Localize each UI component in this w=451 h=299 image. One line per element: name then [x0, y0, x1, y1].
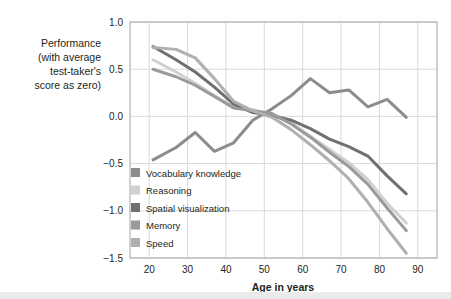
x-tick-label: 90: [412, 264, 424, 275]
x-tick-label: 40: [220, 264, 232, 275]
y-tick-label: 0.0: [109, 111, 123, 122]
legend-swatch: [131, 221, 140, 230]
legend-swatch: [131, 186, 140, 195]
bottom-divider-strip: [0, 292, 451, 299]
legend-label: Memory: [146, 220, 181, 231]
legend-swatch: [131, 203, 140, 212]
y-tick-label: −1.5: [103, 253, 123, 264]
y-axis-title-line: (with average: [38, 51, 101, 63]
y-tick-label: 0.5: [109, 64, 123, 75]
x-tick-label: 80: [374, 264, 386, 275]
x-tick-label: 60: [297, 264, 309, 275]
y-axis-title-line: test-taker's: [50, 65, 101, 77]
y-tick-label: 1.0: [109, 17, 123, 28]
x-tick-label: 20: [144, 264, 156, 275]
legend-label: Vocabulary knowledge: [146, 168, 241, 179]
legend-label: Speed: [146, 238, 173, 249]
y-axis-title-line: score as zero): [34, 79, 101, 91]
x-tick-label: 30: [182, 264, 194, 275]
legend-swatch: [131, 168, 140, 177]
legend-swatch: [131, 238, 140, 247]
y-tick-label: −0.5: [103, 158, 123, 169]
x-tick-label: 50: [259, 264, 271, 275]
y-axis-title-line: Performance: [41, 37, 101, 49]
performance-by-age-line-chart: 1.00.50.0−0.5−1.0−1.5 2030405060708090 P…: [0, 0, 451, 299]
legend-label: Spatial visualization: [146, 203, 229, 214]
y-tick-label: −1.0: [103, 205, 123, 216]
legend-label: Reasoning: [146, 185, 191, 196]
x-tick-label: 70: [336, 264, 348, 275]
